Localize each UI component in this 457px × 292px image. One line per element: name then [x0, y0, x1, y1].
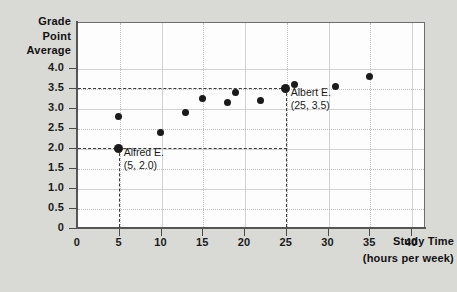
annotation-guide-horizontal-albert	[78, 88, 287, 89]
annotation-coords-alfred: (5, 2.0)	[124, 159, 164, 172]
y-axis-tick	[69, 208, 77, 209]
y-axis-tick	[69, 108, 77, 109]
x-axis-line	[76, 227, 426, 229]
gridline-horizontal	[78, 89, 424, 90]
y-axis-tick	[69, 188, 77, 189]
gridline-horizontal	[78, 109, 424, 110]
plot-area	[77, 22, 425, 228]
y-axis-tick-label: 0	[0, 221, 64, 233]
gridline-vertical	[329, 23, 330, 227]
y-axis-tick	[69, 88, 77, 89]
annotation-albert: Albert E.(25, 3.5)	[291, 86, 331, 112]
y-axis-tick	[69, 148, 77, 149]
y-axis-tick-label: 3.5	[0, 81, 64, 93]
x-axis-tick	[202, 229, 203, 236]
x-axis-tick-label: 25	[271, 236, 301, 248]
y-axis-line	[76, 21, 78, 229]
y-axis-tick-label: 2.0	[0, 141, 64, 153]
annotation-guide-horizontal-alfred	[78, 148, 287, 149]
x-axis-tick	[119, 229, 120, 236]
gridline-horizontal	[78, 209, 424, 210]
scatter-plot-figure: 00.51.01.52.02.53.03.54.0051015202530354…	[0, 0, 457, 292]
y-axis-tick	[69, 168, 77, 169]
y-axis-tick	[69, 228, 77, 229]
data-point	[157, 129, 164, 136]
gridline-horizontal	[78, 189, 424, 190]
data-point-albert-e	[281, 84, 290, 93]
y-axis-tick-label: 2.5	[0, 121, 64, 133]
annotation-title-albert: Albert E.	[291, 86, 331, 98]
y-axis-tick-label: 4.0	[0, 61, 64, 73]
gridline-vertical	[120, 23, 121, 227]
y-axis-tick-label: 0.5	[0, 201, 64, 213]
data-point	[232, 89, 239, 96]
gridline-vertical	[412, 23, 413, 227]
gridline-vertical	[370, 23, 371, 227]
data-point	[224, 99, 231, 106]
gridline-horizontal	[78, 69, 424, 70]
y-axis-title-line-2: Point	[3, 29, 71, 44]
data-point	[182, 109, 189, 116]
x-axis-tick-label: 10	[146, 236, 176, 248]
y-axis-tick	[69, 68, 77, 69]
data-point	[199, 95, 206, 102]
y-axis-tick-label: 1.0	[0, 181, 64, 193]
x-axis-tick	[286, 229, 287, 236]
annotation-guide-vertical-alfred	[119, 148, 120, 227]
y-axis-tick-label: 3.0	[0, 101, 64, 113]
x-axis-title-text: Study Time	[393, 235, 454, 247]
x-axis-tick	[244, 229, 245, 236]
annotation-alfred: Alfred E.(5, 2.0)	[124, 146, 164, 172]
data-point	[115, 113, 122, 120]
x-axis-title: Study Time (hours per week)	[300, 234, 454, 266]
gridline-vertical	[162, 23, 163, 227]
y-axis-title-line-3: Average	[3, 43, 71, 58]
x-axis-tick-label: 20	[229, 236, 259, 248]
annotation-coords-albert: (25, 3.5)	[291, 99, 331, 112]
data-point	[257, 97, 264, 104]
y-axis-tick	[69, 128, 77, 129]
y-axis-title-line-1: Grade	[3, 14, 71, 29]
x-axis-tick-label: 0	[62, 236, 92, 248]
gridline-vertical	[287, 23, 288, 227]
x-axis-tick-label: 15	[187, 236, 217, 248]
gridline-vertical	[203, 23, 204, 227]
data-point	[332, 83, 339, 90]
x-axis-tick	[161, 229, 162, 236]
annotation-guide-vertical-albert	[286, 88, 287, 227]
annotation-title-alfred: Alfred E.	[124, 146, 164, 158]
gridline-horizontal	[78, 129, 424, 130]
x-axis-tick-label: 5	[104, 236, 134, 248]
gridline-vertical	[245, 23, 246, 227]
data-point	[366, 73, 373, 80]
x-axis-title-unit: (hours per week)	[300, 251, 454, 266]
y-axis-title: Grade Point Average	[3, 14, 71, 58]
y-axis-tick-label: 1.5	[0, 161, 64, 173]
data-point-alfred-e	[114, 144, 123, 153]
